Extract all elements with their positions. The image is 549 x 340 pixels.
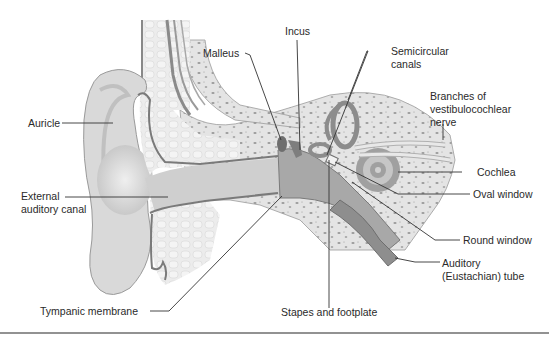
label-auditory-tube-line2: (Eustachian) tube (442, 270, 524, 283)
ear-anatomy-diagram: Auricle External auditory canal Tympanic… (0, 0, 549, 340)
label-round-window: Round window (463, 234, 532, 247)
label-incus: Incus (285, 25, 310, 38)
label-semicircular-canals-line2: canals (391, 58, 421, 71)
malleus-bone (277, 136, 287, 152)
label-vestibulocochlear-nerve-line2: vestibulocochlear (430, 103, 511, 116)
label-semicircular-canals-line1: Semicircular (391, 45, 449, 58)
label-stapes-and-footplate: Stapes and footplate (281, 306, 377, 319)
label-auditory-tube-line1: Auditory (442, 257, 481, 270)
label-oval-window: Oval window (473, 188, 533, 201)
label-external-auditory-canal-line2: auditory canal (21, 203, 86, 216)
label-external-auditory-canal-line1: External (21, 190, 60, 203)
label-vestibulocochlear-nerve-line1: Branches of (430, 90, 486, 103)
label-vestibulocochlear-nerve-line3: nerve (430, 116, 456, 129)
ear-illustration (0, 0, 549, 340)
label-auricle: Auricle (28, 117, 60, 130)
label-malleus: Malleus (203, 47, 239, 60)
label-tympanic-membrane: Tympanic membrane (40, 305, 138, 318)
label-cochlea: Cochlea (477, 166, 516, 179)
